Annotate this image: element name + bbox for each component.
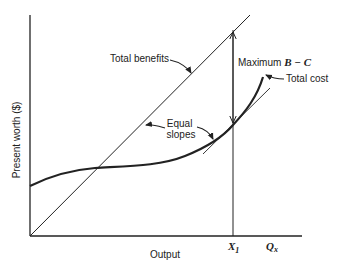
qx-label-sub: x xyxy=(273,245,278,254)
total-benefits-pointer xyxy=(170,60,191,73)
x1-label: X1 xyxy=(227,240,239,255)
qx-label-main: Q xyxy=(266,240,274,252)
equal-slopes-pointer-right xyxy=(197,127,213,139)
total-cost-pointer xyxy=(266,75,284,79)
equal-slopes-pointer-left xyxy=(146,125,165,128)
total-cost-curve xyxy=(30,77,263,186)
equal-slopes-line1: Equal xyxy=(167,118,193,129)
x1-label-sub: 1 xyxy=(235,246,239,255)
y-axis-label: Present worth ($) xyxy=(11,102,22,179)
qx-label: Qx xyxy=(266,240,278,254)
tangent-line xyxy=(203,88,270,154)
max-bc-expr: B − C xyxy=(283,56,312,68)
cost-benefit-diagram: Present worth ($) Output X1 Qx Total ben… xyxy=(0,0,339,271)
equal-slopes-line2: slopes xyxy=(167,129,196,140)
x-axis-label: Output xyxy=(150,249,180,260)
total-benefits-line xyxy=(30,15,250,236)
total-benefits-label: Total benefits xyxy=(110,53,169,64)
total-cost-label: Total cost xyxy=(286,73,328,84)
equal-slopes-label: Equal slopes xyxy=(167,118,196,140)
max-bc-label: Maximum B − C xyxy=(238,56,312,68)
max-bc-text: Maximum xyxy=(238,57,284,68)
